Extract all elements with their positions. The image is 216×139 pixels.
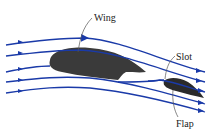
slot-label: Slot xyxy=(176,52,192,62)
wing-label: Wing xyxy=(94,13,116,23)
streamline-5 xyxy=(6,87,205,112)
wing-leader xyxy=(78,18,92,52)
flap-label: Flap xyxy=(176,119,194,129)
